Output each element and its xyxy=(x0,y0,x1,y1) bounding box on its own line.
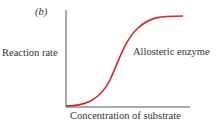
x-axis-label: Concentration of substrate xyxy=(70,110,181,121)
y-axis-label: Reaction rate xyxy=(2,47,58,58)
allosteric-curve xyxy=(66,16,183,106)
chart xyxy=(0,0,216,123)
panel-label: (b) xyxy=(35,6,47,17)
curve-annotation: Allosteric enzyme xyxy=(133,46,210,57)
